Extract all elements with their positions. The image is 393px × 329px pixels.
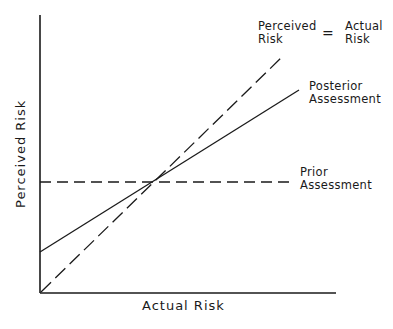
prior-label: Prior Assessment	[300, 166, 372, 192]
identity-line	[41, 58, 281, 292]
identity-label-right: Actual Risk	[345, 20, 383, 46]
posterior-line	[40, 90, 299, 252]
identity-label-risk-right: Risk	[345, 33, 383, 46]
identity-label-left: Perceived Risk	[258, 20, 317, 46]
prior-label-line2: Assessment	[300, 179, 372, 192]
posterior-label: Posterior Assessment	[309, 80, 381, 106]
posterior-label-line2: Assessment	[309, 93, 381, 106]
plot-area	[0, 0, 393, 329]
x-axis-label: Actual Risk	[142, 298, 225, 313]
identity-equals-sign: =	[322, 25, 334, 41]
y-axis-label: Perceived Risk	[13, 100, 28, 208]
identity-label-risk-left: Risk	[258, 33, 317, 46]
